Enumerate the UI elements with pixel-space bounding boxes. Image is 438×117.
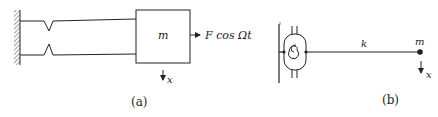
fixed-wall-hatch: [14, 10, 20, 65]
diagram-canvas: m F cos Ωt x (a) k m x (b): [0, 0, 438, 117]
displacement-label-a: x: [167, 74, 173, 85]
rotational-spring-icon: [282, 26, 307, 78]
mass-label-a: m: [158, 29, 168, 42]
point-mass: [417, 49, 423, 55]
displacement-label-b: x: [426, 69, 432, 80]
figure-a: m F cos Ωt x (a): [14, 10, 252, 109]
caption-b: (b): [382, 93, 399, 107]
beam-top: [20, 19, 136, 31]
figure-b: k m x (b): [279, 22, 432, 107]
mass-label-b: m: [415, 36, 424, 47]
force-label: F cos Ωt: [204, 29, 252, 42]
caption-a: (a): [131, 95, 148, 109]
beam-bottom: [20, 44, 136, 55]
stiffness-label: k: [361, 38, 367, 49]
